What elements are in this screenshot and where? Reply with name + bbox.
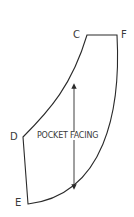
piece-name-label: POCKET FACING [37, 132, 98, 140]
point-label-e: E [15, 198, 21, 208]
point-label-f: F [121, 30, 127, 40]
pattern-piece-outline [0, 0, 134, 217]
point-label-c: C [73, 30, 80, 40]
point-label-d: D [10, 132, 18, 142]
pocket-facing-outline [23, 35, 118, 204]
